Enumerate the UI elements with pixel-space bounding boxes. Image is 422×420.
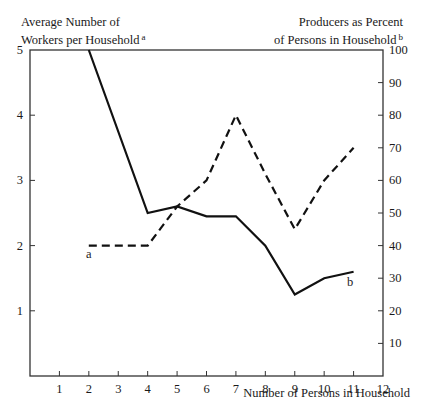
y-right-tick-label: 50 (389, 206, 402, 220)
ticks: 1234567891011121234510203040506070809010… (17, 43, 408, 396)
x-tick-label: 3 (115, 382, 121, 396)
x-tick-label: 7 (233, 382, 239, 396)
y-right-tick-label: 20 (389, 304, 402, 318)
plot-frame (30, 50, 383, 376)
y-right-tick-label: 60 (389, 173, 402, 187)
y-right-tick-label: 100 (389, 43, 408, 57)
y-right-tick-label: 40 (389, 239, 402, 253)
y-left-tick-label: 5 (17, 43, 23, 57)
series-b-tag: b (347, 275, 353, 289)
y-left-tick-label: 1 (17, 304, 23, 318)
y-left-tick-label: 3 (17, 173, 23, 187)
x-tick-label: 4 (145, 382, 152, 396)
x-tick-label: 9 (292, 382, 298, 396)
axes (30, 50, 383, 376)
series-a-line (89, 115, 354, 245)
y-right-tick-label: 70 (389, 141, 402, 155)
y-left-tick-label: 4 (17, 108, 24, 122)
series-a-tag: a (86, 247, 92, 261)
x-tick-label: 11 (348, 382, 360, 396)
x-tick-label: 5 (174, 382, 180, 396)
y-right-tick-label: 80 (389, 108, 402, 122)
series-b-line (89, 50, 354, 295)
y-right-tick-label: 30 (389, 271, 402, 285)
x-tick-label: 10 (318, 382, 331, 396)
x-tick-label: 2 (86, 382, 92, 396)
y-left-tick-label: 2 (17, 239, 23, 253)
x-tick-label: 6 (203, 382, 209, 396)
x-tick-label: 12 (377, 382, 390, 396)
chart-canvas: 1234567891011121234510203040506070809010… (0, 0, 422, 420)
x-tick-label: 1 (56, 382, 62, 396)
series-lines (89, 50, 354, 295)
x-tick-label: 8 (262, 382, 268, 396)
y-right-tick-label: 90 (389, 76, 402, 90)
y-right-tick-label: 10 (389, 336, 402, 350)
